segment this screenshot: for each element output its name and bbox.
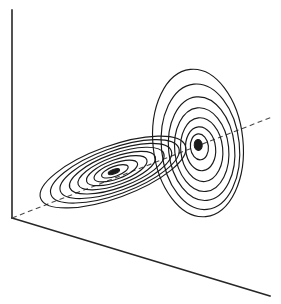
contour-3d-figure <box>0 0 281 304</box>
contour-level-5 <box>177 116 225 184</box>
floor-front-edge <box>12 218 270 296</box>
wall-contour-cluster <box>146 65 251 222</box>
figure-root <box>0 0 281 304</box>
contour-level-4 <box>170 105 232 194</box>
contour-level-8 <box>194 139 203 151</box>
depth-axis <box>12 117 272 218</box>
floor-contour-cluster <box>32 121 194 223</box>
axes-group <box>12 10 272 296</box>
